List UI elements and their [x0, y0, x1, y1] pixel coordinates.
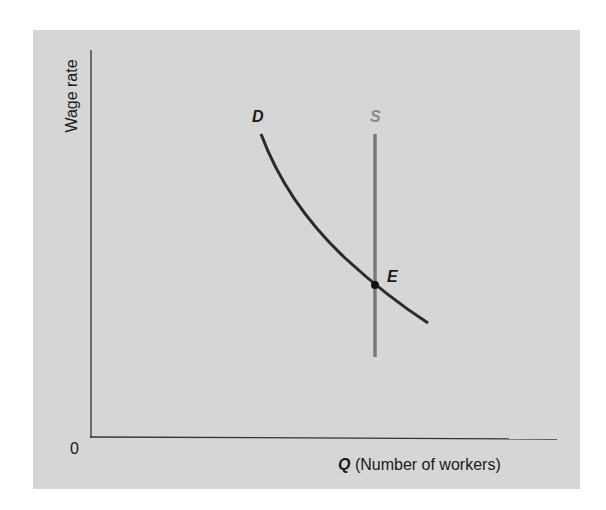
equilibrium-label: E — [387, 268, 398, 286]
y-axis-label: Wage rate — [63, 59, 81, 132]
chart-plot — [0, 0, 606, 510]
demand-curve — [261, 134, 428, 323]
origin-label: 0 — [70, 440, 79, 458]
x-axis — [90, 437, 557, 439]
equilibrium-point — [371, 281, 379, 289]
supply-label: S — [370, 108, 381, 126]
x-axis-text: (Number of workers) — [350, 456, 500, 473]
x-axis-label: Q (Number of workers) — [338, 456, 501, 474]
demand-label: D — [252, 108, 264, 126]
x-axis-symbol: Q — [338, 456, 350, 473]
